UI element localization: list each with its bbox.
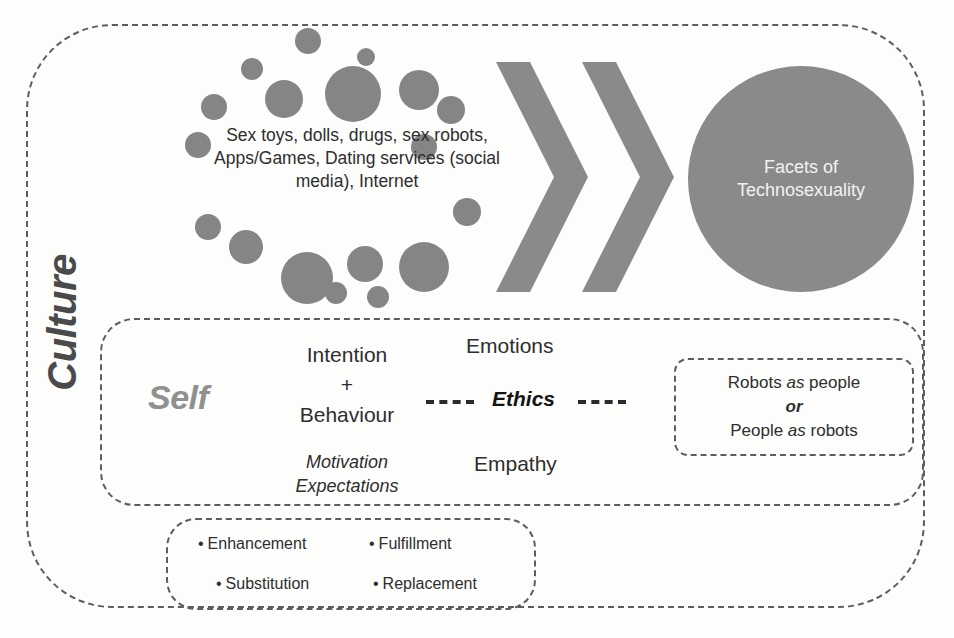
- robots-as-people-line: Robots as people: [728, 371, 860, 395]
- ethics-connector-left: [426, 400, 474, 404]
- facets-of-technosexuality-circle: Facets of Technosexuality: [688, 66, 914, 292]
- outcome-item: •Substitution: [198, 575, 355, 593]
- emotions-label: Emotions: [466, 334, 554, 358]
- outcome-item: •Replacement: [355, 575, 512, 593]
- as-word-1: as: [786, 373, 804, 392]
- cluster-dot: [229, 230, 263, 264]
- cluster-dot: [265, 80, 303, 118]
- outcome-item: •Fulfillment: [355, 535, 512, 553]
- cluster-dot: [357, 48, 375, 66]
- cluster-dot: [195, 214, 221, 240]
- culture-label: Culture: [40, 223, 85, 423]
- bullet-icon: •: [369, 535, 375, 552]
- chevron-right-icon-1: [496, 62, 588, 292]
- facets-circle-label: Facets of Technosexuality: [706, 156, 896, 202]
- people-word: people: [804, 373, 860, 392]
- process-arrow-group: [496, 62, 686, 292]
- intention-label: Intention: [262, 340, 432, 370]
- outcome-label: Enhancement: [208, 535, 307, 552]
- cluster-dot: [325, 282, 347, 304]
- outcomes-grid: •Enhancement•Fulfillment•Substitution•Re…: [168, 520, 534, 608]
- cluster-dot: [201, 94, 227, 120]
- empathy-label: Empathy: [474, 452, 557, 476]
- chevron-right-icon-2: [582, 62, 674, 292]
- cluster-dot: [399, 242, 449, 292]
- cluster-dot: [325, 66, 381, 122]
- cluster-dot: [367, 286, 389, 308]
- outcome-label: Substitution: [226, 575, 310, 592]
- ethics-label: Ethics: [492, 387, 555, 411]
- motivation-label: Motivation: [262, 450, 432, 474]
- people-as-robots-line: People as robots: [730, 419, 858, 443]
- cluster-dot: [185, 132, 211, 158]
- facets-line-2: Technosexuality: [706, 179, 896, 202]
- cluster-dot: [453, 198, 481, 226]
- as-word-2: as: [788, 421, 806, 440]
- or-label: or: [786, 395, 803, 419]
- outcome-item: •Enhancement: [198, 535, 355, 553]
- outcome-label: Replacement: [383, 575, 477, 592]
- ethics-connector-right: [578, 400, 626, 404]
- cluster-dot: [241, 58, 263, 80]
- expectations-label: Expectations: [262, 474, 432, 498]
- cluster-dot: [295, 28, 321, 54]
- robots-people-text: Robots as people or People as robots: [676, 360, 912, 454]
- cluster-dot: [347, 246, 383, 282]
- self-label: Self: [148, 378, 208, 417]
- outcome-label: Fulfillment: [379, 535, 452, 552]
- plus-sign: +: [262, 370, 432, 400]
- outcomes-box: •Enhancement•Fulfillment•Substitution•Re…: [166, 518, 536, 610]
- cluster-dot: [437, 96, 465, 124]
- robots-word: Robots: [728, 373, 787, 392]
- facets-line-1: Facets of: [706, 156, 896, 179]
- robots-people-box: Robots as people or People as robots: [674, 358, 914, 456]
- robots-word-2: robots: [806, 421, 858, 440]
- people-word-2: People: [730, 421, 788, 440]
- behaviour-label: Behaviour: [262, 400, 432, 430]
- cluster-dot: [399, 70, 439, 110]
- technology-cluster-label: Sex toys, dolls, drugs, sex robots, Apps…: [212, 124, 502, 193]
- bullet-icon: •: [373, 575, 379, 592]
- bullet-icon: •: [198, 535, 204, 552]
- motivation-expectations-stack: Motivation Expectations: [262, 450, 432, 498]
- bullet-icon: •: [216, 575, 222, 592]
- intention-behaviour-stack: Intention + Behaviour: [262, 340, 432, 430]
